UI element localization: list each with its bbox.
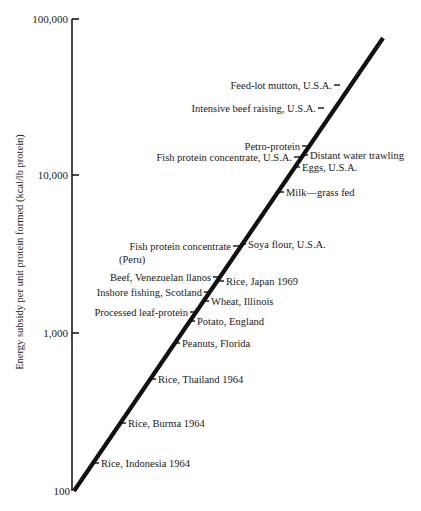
label-fpc-peru: Fish protein concentrate xyxy=(130,241,232,252)
chart: 100,000 10,000 1,000 100 Energy subsidy … xyxy=(0,0,421,511)
tick-label-100000: 100,000 xyxy=(32,13,68,25)
label-eggs-usa: Eggs, U.S.A. xyxy=(302,162,357,173)
label-feedlot-mutton: Feed-lot mutton, U.S.A. xyxy=(231,80,333,91)
label-rice-thailand: Rice, Thailand 1964 xyxy=(158,374,244,385)
label-intensive-beef: Intensive beef raising, U.S.A. xyxy=(191,103,316,114)
tick-label-10000: 10,000 xyxy=(38,169,69,181)
label-rice-indonesia: Rice, Indonesia 1964 xyxy=(101,458,191,469)
label-potato-england: Potato, England xyxy=(197,316,265,327)
label-leaf-protein: Processed leaf-protein xyxy=(94,307,188,318)
tick-label-100: 100 xyxy=(54,485,71,497)
label-soya-flour: Soya flour, U.S.A. xyxy=(248,239,326,250)
label-distant-water-trawling: Distant water trawling xyxy=(310,150,405,161)
y-axis-label: Energy subsidy per unit protein formed (… xyxy=(14,134,26,370)
label-rice-japan: Rice, Japan 1969 xyxy=(226,276,298,287)
label-fpc-usa: Fish protein concentrate, U.S.A. xyxy=(156,152,292,163)
label-petro-protein: Petro-protein xyxy=(245,141,301,152)
label-inshore-fishing: Inshore fishing, Scotland xyxy=(97,287,203,298)
label-fpc-peru-line2: (Peru) xyxy=(119,254,146,266)
tick-label-1000: 1,000 xyxy=(43,327,68,339)
label-peanuts-florida: Peanuts, Florida xyxy=(182,338,251,349)
label-milk-grass-fed: Milk—grass fed xyxy=(286,187,355,198)
label-beef-venezuelan: Beef, Venezuelan llanos xyxy=(110,272,211,283)
label-wheat-illinois: Wheat, Illinois xyxy=(211,296,273,307)
label-rice-burma: Rice, Burma 1964 xyxy=(128,418,205,429)
